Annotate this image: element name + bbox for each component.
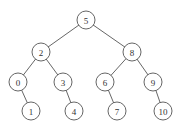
node-label: 4 — [72, 107, 77, 117]
tree-node-10: 10 — [154, 102, 172, 120]
tree-node-3: 3 — [54, 73, 72, 91]
tree-node-7: 7 — [108, 102, 126, 120]
tree-node-5: 5 — [77, 11, 95, 29]
node-label: 8 — [130, 48, 135, 58]
node-label: 5 — [84, 16, 89, 26]
tree-diagram: 528036914710 — [0, 0, 187, 132]
tree-node-8: 8 — [123, 43, 141, 61]
tree-node-9: 9 — [144, 73, 162, 91]
tree-node-1: 1 — [22, 102, 40, 120]
node-label: 1 — [29, 107, 34, 117]
node-label: 0 — [16, 78, 21, 88]
tree-node-4: 4 — [65, 102, 83, 120]
node-label: 3 — [61, 78, 66, 88]
tree-node-2: 2 — [32, 43, 50, 61]
node-label: 9 — [151, 78, 156, 88]
tree-node-6: 6 — [96, 73, 114, 91]
tree-nodes: 528036914710 — [9, 11, 172, 120]
tree-edges — [18, 20, 163, 111]
node-label: 7 — [115, 107, 120, 117]
node-label: 10 — [159, 107, 169, 117]
node-label: 6 — [103, 78, 108, 88]
tree-node-0: 0 — [9, 73, 27, 91]
node-label: 2 — [39, 48, 44, 58]
